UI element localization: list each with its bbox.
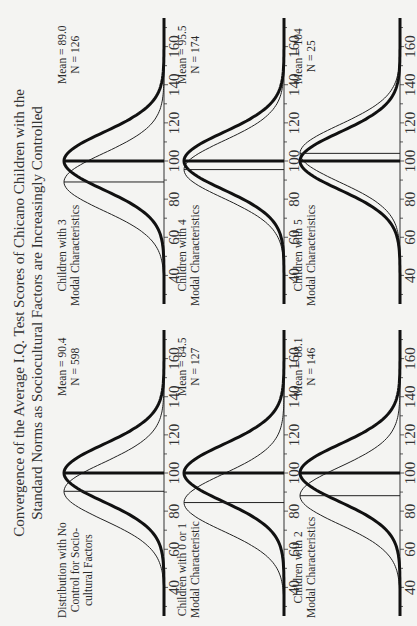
panel-label: Children with 5Modal Characteristics [292,205,318,306]
panel-label: Children with 4Modal Characteristics [176,205,202,306]
x-tick-label: 60 [402,542,417,557]
panel-label-line: Children with 3 [56,205,69,306]
mean-value: Mean = 84.5 [176,337,189,396]
panel-label-line: Control for Socio- [69,522,82,618]
panel-stats: Mean = 90.4N = 598 [56,337,82,396]
panel-label: Children with 3Modal Characteristics [56,205,82,306]
x-tick-label: 160 [402,347,417,370]
panel-label-line: Children with 5 [292,205,305,306]
panel-stats: Mean = 84.5N = 127 [176,337,202,396]
panel-label-line: Children with 0 or 1 [176,521,189,618]
panel-label-line: Modal Characteristics [305,517,318,618]
x-tick-label: 120 [402,424,417,447]
mean-value: Mean = 88.1 [292,337,305,396]
panel-stats: Mean = 88.1N = 146 [292,337,318,396]
title-line-1: Convergence of the Average I.Q. Test Sco… [10,0,28,626]
chart-panel: 406080100120140160Children with 4Modal C… [176,6,294,306]
chart-panel: 406080100120140160Children with 3Modal C… [56,6,174,306]
x-tick-label: 80 [402,192,417,207]
x-tick-label: 80 [402,504,417,519]
panel-label-line: Modal Characteristics [189,205,202,306]
chart-panel: 406080100120140160Children with 5Modal C… [292,6,410,306]
panel-label-line: Children with 4 [176,205,189,306]
sample-size: N = 25 [305,28,318,84]
mean-value: Mean = 90.4 [56,337,69,396]
chart-panel: 406080100120140160Distribution with NoCo… [56,318,174,618]
panel-label: Distribution with NoControl for Socio-cu… [56,522,95,618]
panel-stats: Mean = 104N = 25 [292,28,318,84]
x-tick-label: 40 [402,268,417,283]
x-tick-label: 100 [402,150,417,173]
chart-title: Convergence of the Average I.Q. Test Sco… [10,0,46,626]
chart-panel: 406080100120140160Children with 0 or 1Mo… [176,318,294,618]
title-line-2: Standard Norms as Sociocultural Factors … [28,0,46,626]
sample-size: N = 598 [69,337,82,396]
x-tick-label: 40 [402,580,417,595]
panel-label-line: Modal Characteristics [305,205,318,306]
x-tick-label: 100 [402,462,417,485]
panel-label: Children with 2Modal Characteristics [292,517,318,618]
panel-label-line: Children with 2 [292,517,305,618]
panel-label-line: Distribution with No [56,522,69,618]
x-tick-label: 140 [402,385,417,408]
panel-label-line: Modal Characteristic [189,521,202,618]
panel-stats: Mean = 95.5N = 174 [176,25,202,84]
x-tick-label: 140 [402,73,417,96]
mean-value: Mean = 95.5 [176,25,189,84]
x-tick-label: 60 [402,230,417,245]
sample-size: N = 146 [305,337,318,396]
sample-size: N = 126 [69,25,82,84]
panel-label-line: cultural Factors [82,522,95,618]
x-tick-label: 120 [402,112,417,134]
panel-label-line: Modal Characteristics [69,205,82,306]
panel-stats: Mean = 89.0N = 126 [56,25,82,84]
chart-panel: 406080100120140160Children with 2Modal C… [292,318,410,618]
x-tick-label: 160 [402,35,417,58]
sample-size: N = 127 [189,337,202,396]
mean-value: Mean = 104 [292,28,305,84]
panel-label: Children with 0 or 1Modal Characteristic [176,521,202,618]
mean-value: Mean = 89.0 [56,25,69,84]
sample-size: N = 174 [189,25,202,84]
